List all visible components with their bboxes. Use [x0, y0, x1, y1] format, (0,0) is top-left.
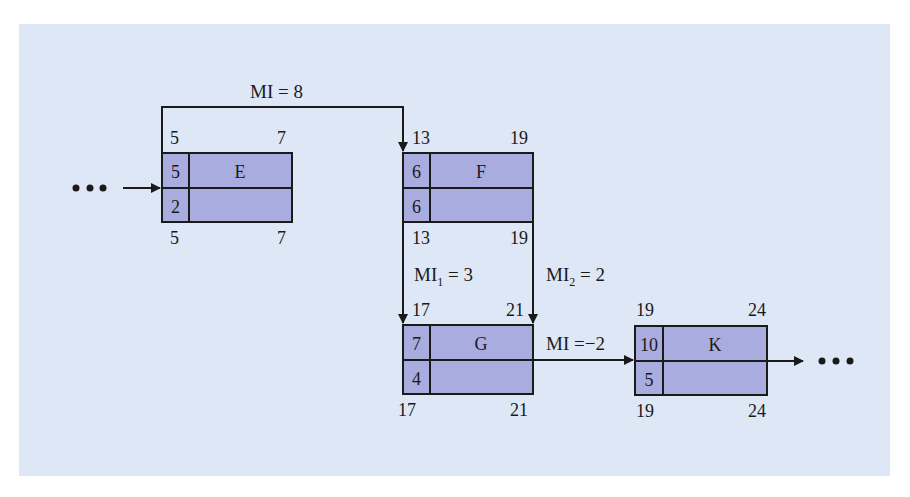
node-f-latest-finish: 19	[510, 228, 528, 248]
node-g-name: G	[475, 334, 488, 354]
node-k-name: K	[709, 335, 722, 355]
dot	[833, 358, 840, 365]
node-e-earliest-start: 5	[170, 128, 179, 148]
edge-f-g-2-label-main: MI	[546, 264, 569, 285]
node-k-earliest-finish: 24	[748, 300, 766, 320]
node-k-float: 5	[645, 370, 654, 390]
node-k-earliest-start: 19	[636, 300, 654, 320]
node-e[interactable]: 5 7 5 2 E 5 7	[162, 128, 292, 248]
node-g-duration: 7	[412, 334, 421, 354]
dot	[847, 358, 854, 365]
edge-f-g-2-label: MI2 = 2	[546, 264, 605, 289]
edge-g-k-label: MI =−2	[546, 333, 605, 354]
continuation-left	[73, 185, 107, 192]
node-e-duration: 5	[171, 162, 180, 182]
node-f-earliest-finish: 19	[510, 128, 528, 148]
node-e-float: 2	[171, 197, 180, 217]
dot	[73, 185, 80, 192]
node-g-earliest-start: 17	[412, 300, 430, 320]
node-g-latest-start: 17	[398, 400, 416, 420]
node-g-earliest-finish: 21	[506, 300, 524, 320]
node-k-duration: 10	[640, 335, 658, 355]
network-diagram: MI = 8 5 7 5 2 E 5 7 13 19 6 6 F 13 19 M…	[0, 0, 910, 497]
node-f-latest-start: 13	[412, 228, 430, 248]
node-k-latest-start: 19	[636, 401, 654, 421]
node-f-name: F	[476, 162, 486, 182]
node-e-earliest-finish: 7	[277, 128, 286, 148]
node-e-latest-finish: 7	[277, 228, 286, 248]
node-k-latest-finish: 24	[748, 401, 766, 421]
edge-f-g-1-label-main: MI	[414, 264, 437, 285]
node-f[interactable]: 13 19 6 6 F 13 19	[403, 128, 533, 248]
dot	[819, 358, 826, 365]
node-k[interactable]: 19 24 10 5 K 19 24	[635, 300, 767, 421]
edge-f-g-1-label-tail: = 3	[443, 264, 473, 285]
node-f-float: 6	[412, 197, 421, 217]
node-e-name: E	[235, 162, 246, 182]
edge-e-f-label: MI = 8	[250, 81, 303, 102]
dot	[87, 185, 94, 192]
node-g-float: 4	[412, 369, 421, 389]
node-f-earliest-start: 13	[412, 128, 430, 148]
edge-f-g-1-label: MI1 = 3	[414, 264, 473, 289]
edge-f-g-2-label-tail: = 2	[575, 264, 605, 285]
dot	[100, 185, 107, 192]
node-e-latest-start: 5	[170, 228, 179, 248]
node-g[interactable]: 17 21 7 4 G 17 21	[398, 300, 533, 420]
node-f-duration: 6	[412, 162, 421, 182]
node-g-latest-finish: 21	[510, 400, 528, 420]
continuation-right	[819, 358, 854, 365]
